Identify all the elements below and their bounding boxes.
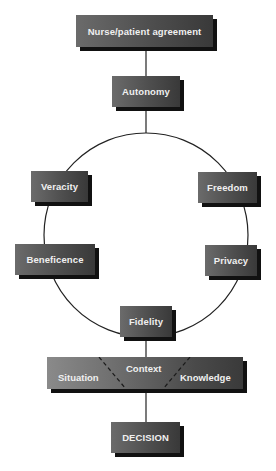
privacy-label: Privacy xyxy=(214,255,249,266)
veracity-label: Veracity xyxy=(41,181,78,192)
decision-label: DECISION xyxy=(122,432,169,443)
freedom-label: Freedom xyxy=(207,182,248,193)
veracity-box: Veracity xyxy=(31,171,88,202)
situation-label: Situation xyxy=(58,372,99,383)
privacy-box: Privacy xyxy=(205,245,257,276)
freedom-box: Freedom xyxy=(198,172,257,203)
fidelity-label: Fidelity xyxy=(129,316,163,327)
autonomy-label: Autonomy xyxy=(122,86,170,97)
autonomy-box: Autonomy xyxy=(112,76,180,107)
beneficence-box: Beneficence xyxy=(15,244,95,275)
nurse-patient-agreement-box: Nurse/patient agreement xyxy=(76,15,213,47)
context-bar: Situation Context Knowledge xyxy=(47,357,243,389)
context-label: Context xyxy=(126,363,161,374)
connector-lines xyxy=(0,0,276,471)
knowledge-label: Knowledge xyxy=(180,372,231,383)
decision-box: DECISION xyxy=(111,422,180,453)
beneficence-label: Beneficence xyxy=(26,254,83,265)
fidelity-box: Fidelity xyxy=(120,306,172,337)
nurse-patient-agreement-label: Nurse/patient agreement xyxy=(88,26,202,37)
